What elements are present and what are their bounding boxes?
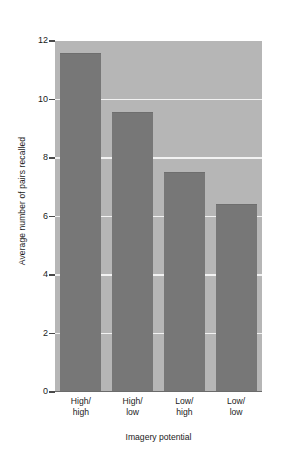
bar <box>112 112 153 392</box>
x-tick-label-line: low <box>107 407 159 418</box>
y-tickmark <box>49 40 55 41</box>
y-tickmark <box>49 157 55 158</box>
x-tick-label-line: High/ <box>55 396 107 407</box>
x-tick-label-line: Low/ <box>210 396 262 407</box>
x-tick-label: High/low <box>107 396 159 418</box>
bar-chart-figure: Average number of pairs recalled 12 10 8… <box>0 0 285 464</box>
bar <box>216 204 257 392</box>
bar <box>164 172 205 392</box>
y-tick-label: 10 <box>26 95 48 104</box>
x-tick-label-line: Low/ <box>159 396 211 407</box>
bar <box>60 53 101 392</box>
y-tickmark <box>49 274 55 275</box>
y-tick-label: 8 <box>26 153 48 162</box>
y-tick-label: 0 <box>26 387 48 396</box>
y-tick-label: 12 <box>26 36 48 45</box>
x-axis-tick-labels: High/highHigh/lowLow/highLow/low <box>55 396 262 430</box>
y-tickmark <box>49 216 55 217</box>
x-tick-label-line: high <box>55 407 107 418</box>
x-tick-label: Low/high <box>159 396 211 418</box>
y-tick-label: 6 <box>26 212 48 221</box>
y-tick-label: 2 <box>26 329 48 338</box>
y-tickmark <box>49 333 55 334</box>
x-tick-label-line: low <box>210 407 262 418</box>
x-tick-label-line: high <box>159 407 211 418</box>
y-tickmark <box>49 99 55 100</box>
y-tick-label: 4 <box>26 270 48 279</box>
x-tick-label: Low/low <box>210 396 262 418</box>
x-tick-label-line: High/ <box>107 396 159 407</box>
x-tick-label: High/high <box>55 396 107 418</box>
x-axis-title: Imagery potential <box>55 432 262 442</box>
y-axis-tick-labels: 12 10 8 6 4 2 0 <box>22 0 48 464</box>
x-axis-baseline <box>55 391 262 393</box>
plot-area <box>55 41 262 392</box>
